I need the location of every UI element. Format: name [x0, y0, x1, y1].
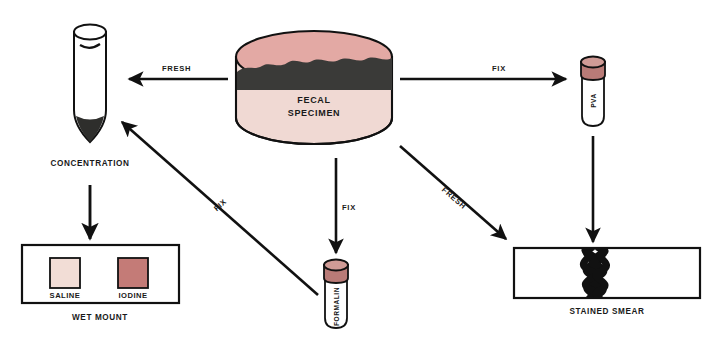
slide-stained-smear — [514, 247, 700, 301]
smear-streak — [583, 247, 606, 301]
pva-vial-label: PVA — [590, 89, 597, 113]
fecal-specimen-caption-line1: FECAL — [264, 94, 364, 107]
fecal-specimen-container — [236, 31, 392, 144]
fecal-specimen-caption: FECAL SPECIMEN — [264, 94, 364, 120]
iodine-swatch-label: IODINE — [101, 291, 165, 300]
stained-smear-label: STAINED SMEAR — [547, 306, 667, 317]
saline-swatch-label: SALINE — [33, 291, 97, 300]
centrifuge-tube-concentration — [74, 25, 106, 143]
wet-mount-label: WET MOUNT — [40, 312, 160, 323]
fecal-specimen-caption-line2: SPECIMEN — [264, 107, 364, 120]
arrow-label-fix-pva: FIX — [492, 64, 506, 73]
arrow-label-fresh-concentration: FRESH — [162, 64, 191, 73]
arrow-label-fix-formalin: FIX — [342, 203, 356, 212]
diagram-canvas: FECAL SPECIMEN CONCENTRATION WET MOUNT S… — [0, 0, 722, 338]
formalin-vial-label: FORMALIN — [333, 282, 340, 332]
concentration-label: CONCENTRATION — [30, 158, 150, 169]
